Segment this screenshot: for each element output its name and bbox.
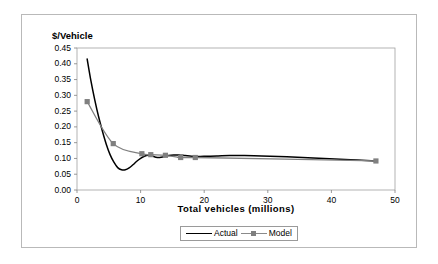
y-axis-tick-label: 0.15 bbox=[41, 138, 71, 147]
data-point-marker bbox=[148, 152, 153, 157]
y-axis-tick-label: 0.40 bbox=[41, 59, 71, 68]
legend-label-actual: Actual bbox=[214, 229, 238, 238]
y-axis-tick-label: 0.05 bbox=[41, 170, 71, 179]
data-point-marker bbox=[373, 158, 378, 163]
data-point-marker bbox=[163, 153, 168, 158]
chart-legend: Actual Model bbox=[180, 226, 298, 241]
legend-entry-actual[interactable]: Actual bbox=[186, 229, 238, 238]
y-axis-tick-label: 0.25 bbox=[41, 107, 71, 116]
legend-swatch-model bbox=[241, 229, 267, 238]
data-point-marker bbox=[178, 155, 183, 160]
y-axis-tick-label: 0.00 bbox=[41, 186, 71, 195]
y-axis-tick-label: 0.30 bbox=[41, 91, 71, 100]
chart-figure: $/Vehicle 0.000.050.100.150.200.250.300.… bbox=[0, 0, 438, 264]
x-axis-title: Total vehicles (millions) bbox=[77, 203, 395, 214]
y-axis-tick-label: 0.45 bbox=[41, 44, 71, 53]
plot-area bbox=[77, 48, 395, 190]
legend-entry-model[interactable]: Model bbox=[241, 229, 292, 238]
data-point-marker bbox=[85, 99, 90, 104]
y-axis-tick-label: 0.20 bbox=[41, 122, 71, 131]
data-point-marker bbox=[111, 141, 116, 146]
legend-label-model: Model bbox=[269, 229, 292, 238]
data-point-marker bbox=[193, 155, 198, 160]
y-axis-tick-label: 0.10 bbox=[41, 154, 71, 163]
legend-marker-square-model bbox=[251, 231, 256, 236]
plot-axes-group bbox=[77, 48, 395, 190]
chart-plot-canvas bbox=[0, 0, 438, 264]
legend-swatch-actual bbox=[186, 229, 212, 238]
data-point-marker bbox=[139, 151, 144, 156]
y-axis-tick-label: 0.35 bbox=[41, 75, 71, 84]
